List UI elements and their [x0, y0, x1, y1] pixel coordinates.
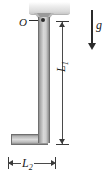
gravity-vector-arrowhead-icon	[88, 43, 96, 50]
physics-diagram-lshaped-pendulum: O L1 L2 g	[0, 0, 109, 177]
dimension-L1-arrowhead-bottom	[59, 139, 65, 144]
gravity-vector-shaft	[91, 10, 93, 44]
dimension-label-l1: L1	[54, 61, 70, 72]
gravity-label: g	[96, 18, 102, 33]
pivot-label-o: O	[19, 16, 27, 28]
dimension-L1-tick-bottom	[56, 144, 69, 145]
dimension-L1-line	[62, 22, 63, 144]
dimension-label-l1-subscript: 1	[61, 61, 70, 65]
dimension-label-l1-text: L	[54, 65, 68, 72]
dimension-L2-arrowhead-right	[51, 160, 56, 166]
pivot-dot	[41, 18, 45, 22]
dimension-label-l2-subscript: 2	[29, 163, 33, 172]
dimension-label-l2-text: L	[22, 156, 29, 170]
dimension-L1-arrowhead-top	[59, 22, 65, 27]
dimension-L2-arrowhead-left	[8, 160, 13, 166]
l-bar-horizontal-end-cap	[11, 134, 12, 144]
l-bar-vertical-limb	[38, 17, 50, 143]
dimension-label-l2: L2	[21, 156, 34, 172]
